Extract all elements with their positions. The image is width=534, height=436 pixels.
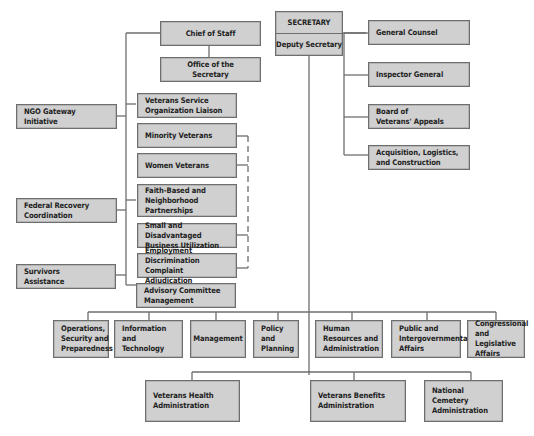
policy-planning-box: Policy and Planning bbox=[253, 320, 299, 358]
vso-liaison-box: Veterans Service Organization Liaison bbox=[137, 93, 237, 118]
office-of-secretary-box: Office of the Secretary bbox=[160, 57, 261, 82]
vso-liaison-label: Veterans Service Organization Liaison bbox=[145, 96, 222, 116]
veterans-benefits-box: Veterans Benefits Administration bbox=[310, 380, 406, 422]
office-of-secretary-label: Office of the Secretary bbox=[168, 60, 253, 80]
deputy-secretary-cell: Deputy Secretary bbox=[276, 34, 342, 55]
women-veterans-box: Women Veterans bbox=[137, 153, 237, 178]
minority-veterans-box: Minority Veterans bbox=[137, 123, 237, 148]
acquisition-logistics-label: Acquisition, Logistics, and Construction bbox=[376, 148, 458, 168]
board-of-veterans-appeals-box: Board of Veterans' Appeals bbox=[368, 104, 470, 129]
deputy-secretary-label: Deputy Secretary bbox=[276, 40, 342, 50]
chief-of-staff-box: Chief of Staff bbox=[160, 21, 261, 46]
management-label: Management bbox=[193, 334, 242, 344]
advisory-committee-box: Advisory Committee Management bbox=[136, 283, 236, 308]
survivors-assistance-label: Survivors Assistance bbox=[24, 267, 64, 287]
national-cemetery-box: National Cemetery Administration bbox=[424, 380, 503, 422]
veterans-benefits-label: Veterans Benefits Administration bbox=[318, 391, 385, 411]
acquisition-logistics-box: Acquisition, Logistics, and Construction bbox=[368, 145, 470, 170]
management-box: Management bbox=[190, 320, 246, 358]
policy-planning-label: Policy and Planning bbox=[261, 324, 294, 354]
federal-recovery-box: Federal Recovery Coordination bbox=[16, 198, 117, 223]
inspector-general-label: Inspector General bbox=[376, 70, 443, 80]
inspector-general-box: Inspector General bbox=[368, 62, 470, 87]
faith-based-box: Faith-Based and Neighborhood Partnership… bbox=[137, 184, 237, 217]
general-counsel-box: General Counsel bbox=[368, 20, 470, 45]
chief-of-staff-label: Chief of Staff bbox=[186, 29, 236, 39]
board-of-veterans-appeals-label: Board of Veterans' Appeals bbox=[376, 107, 444, 127]
women-veterans-label: Women Veterans bbox=[145, 161, 209, 171]
employment-discrimination-box: Employment Discrimination Complaint Adju… bbox=[137, 253, 237, 278]
secretary-label: SECRETARY bbox=[288, 18, 331, 28]
information-technology-box: Information and Technology bbox=[114, 320, 183, 358]
operations-security-label: Operations, Security and Preparedness bbox=[61, 324, 113, 354]
national-cemetery-label: National Cemetery Administration bbox=[432, 386, 495, 416]
secretary-label-cell: SECRETARY bbox=[276, 12, 342, 34]
information-technology-label: Information and Technology bbox=[122, 324, 175, 354]
secretary-box: SECRETARY Deputy Secretary bbox=[275, 11, 343, 56]
ngo-gateway-label: NGO Gateway Initiative bbox=[24, 107, 76, 127]
general-counsel-label: General Counsel bbox=[376, 28, 437, 38]
human-resources-box: Human Resources and Administration bbox=[315, 320, 383, 358]
advisory-committee-label: Advisory Committee Management bbox=[144, 286, 220, 306]
survivors-assistance-box: Survivors Assistance bbox=[16, 264, 116, 289]
congressional-legislative-box: Congressional and Legislative Affairs bbox=[467, 320, 525, 358]
veterans-health-label: Veterans Health Administration bbox=[153, 391, 214, 411]
veterans-health-box: Veterans Health Administration bbox=[145, 380, 240, 422]
faith-based-label: Faith-Based and Neighborhood Partnership… bbox=[145, 186, 229, 216]
operations-security-box: Operations, Security and Preparedness bbox=[53, 320, 109, 358]
small-business-box: Small and Disadvantaged Business Utiliza… bbox=[137, 223, 237, 248]
ngo-gateway-box: NGO Gateway Initiative bbox=[16, 104, 117, 129]
employment-discrimination-label: Employment Discrimination Complaint Adju… bbox=[145, 246, 229, 286]
congressional-legislative-label: Congressional and Legislative Affairs bbox=[475, 319, 528, 359]
federal-recovery-label: Federal Recovery Coordination bbox=[24, 201, 89, 221]
public-intergovernmental-box: Public and Intergovernmental Affairs bbox=[391, 320, 461, 358]
human-resources-label: Human Resources and Administration bbox=[323, 324, 379, 354]
public-intergovernmental-label: Public and Intergovernmental Affairs bbox=[399, 324, 470, 354]
minority-veterans-label: Minority Veterans bbox=[145, 131, 212, 141]
